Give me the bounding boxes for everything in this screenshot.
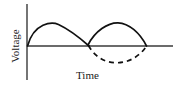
curve-first-hump — [28, 23, 90, 46]
curve-second-hump — [88, 23, 147, 46]
curve-inverted-lobe-dashed — [89, 46, 147, 63]
y-axis-label: Voltage — [9, 22, 20, 70]
waveform-figure: Voltage Time — [0, 0, 190, 92]
y-axis-label-text: Voltage — [9, 29, 20, 62]
x-axis-label: Time — [76, 70, 99, 81]
